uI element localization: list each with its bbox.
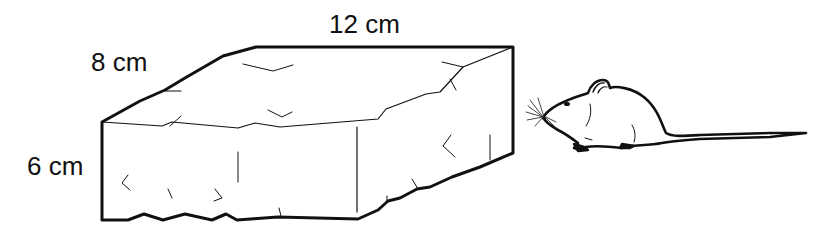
rectangular-block xyxy=(102,47,513,220)
diagram-canvas xyxy=(0,0,829,244)
mouse xyxy=(526,80,806,151)
